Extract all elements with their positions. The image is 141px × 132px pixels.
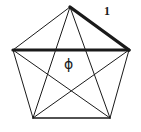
pentagon-side-right-bottomright xyxy=(110,50,129,118)
pentagon-side-bottomleft-left xyxy=(13,50,33,118)
highlighted-side-apex-right xyxy=(70,7,129,50)
pentagram-diagonal-left-bottomright xyxy=(13,50,110,118)
pentagon-side-left-apex xyxy=(13,7,70,50)
side-length-label: 1 xyxy=(104,5,110,17)
diagonal-length-label: ϕ xyxy=(64,57,73,71)
pentagram-diagonal-right-bottomleft xyxy=(33,50,129,118)
pentagon-golden-ratio-figure: 1 ϕ xyxy=(0,0,141,132)
